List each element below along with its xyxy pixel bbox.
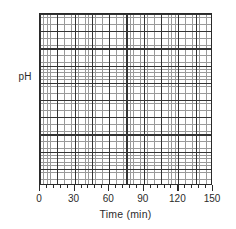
x-tick-minor: [136, 185, 137, 188]
x-tick-minor: [198, 185, 199, 188]
x-tick-label: 150: [194, 192, 230, 205]
x-tick-minor: [60, 185, 61, 188]
x-tick-major: [143, 185, 144, 191]
x-tick-minor: [87, 185, 88, 188]
x-tick-minor: [94, 185, 95, 188]
x-tick-major: [108, 185, 109, 191]
x-tick-minor: [205, 185, 206, 188]
minor-gridlines: [40, 14, 211, 184]
x-tick-minor: [101, 185, 102, 188]
x-tick-minor: [157, 185, 158, 188]
x-tick-minor: [150, 185, 151, 188]
x-tick-minor: [184, 185, 185, 188]
x-tick-minor: [53, 185, 54, 188]
x-tick-major: [177, 185, 178, 191]
x-tick-minor: [129, 185, 130, 188]
x-tick-minor: [170, 185, 171, 188]
data-series-layer: [40, 14, 211, 184]
x-tick-minor: [191, 185, 192, 188]
x-axis-tick-labels: 0306090120150: [0, 192, 236, 206]
x-tick-minor: [67, 185, 68, 188]
chart-figure: pH 0306090120150 Time (min): [0, 0, 236, 229]
x-tick-minor: [164, 185, 165, 188]
x-tick-major: [74, 185, 75, 191]
x-tick-label: 120: [159, 192, 195, 205]
x-tick-label: 90: [125, 192, 161, 205]
x-tick-minor: [115, 185, 116, 188]
x-tick-minor: [46, 185, 47, 188]
major-gridlines: [40, 14, 211, 184]
x-axis-ticks: [39, 185, 212, 192]
x-tick-major: [212, 185, 213, 191]
x-tick-minor: [122, 185, 123, 188]
x-tick-major: [39, 185, 40, 191]
plot-area[interactable]: [39, 13, 212, 185]
x-axis-label: Time (min): [39, 208, 212, 221]
x-tick-label: 30: [56, 192, 92, 205]
x-tick-label: 60: [90, 192, 126, 205]
x-tick-label: 0: [21, 192, 57, 205]
x-tick-minor: [81, 185, 82, 188]
y-axis-label: pH: [14, 71, 36, 83]
